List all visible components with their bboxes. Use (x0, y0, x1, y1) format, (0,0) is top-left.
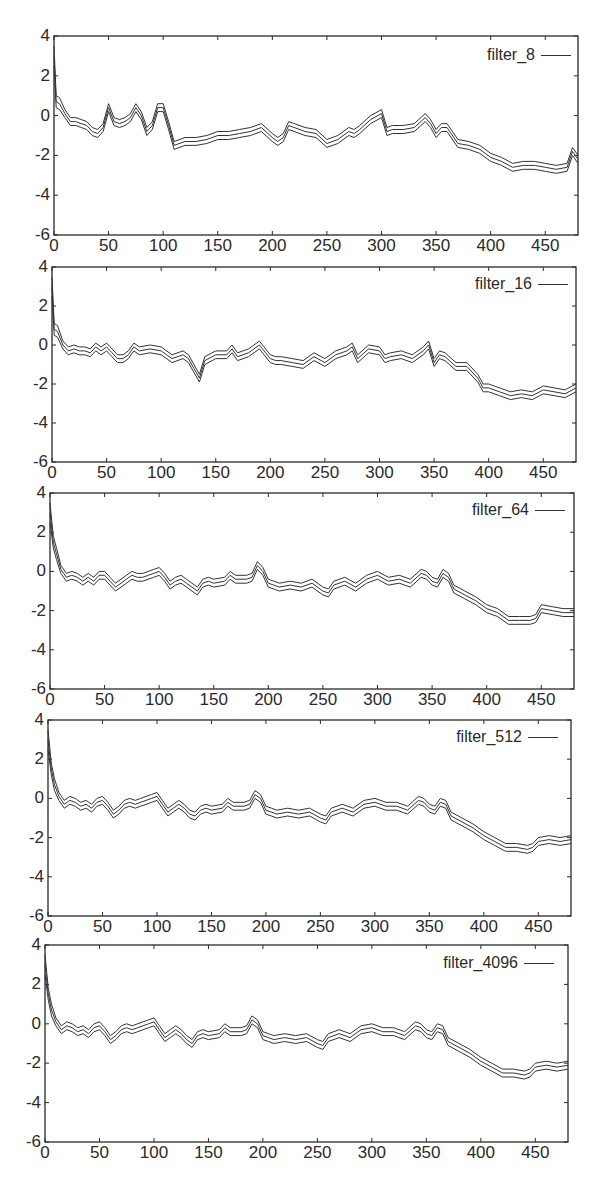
series-line-mid (45, 965, 568, 1075)
x-tick-label: 350 (406, 1144, 446, 1161)
axes-frame (45, 945, 568, 1142)
x-tick-label: 200 (243, 1144, 283, 1161)
y-tick-label: -2 (11, 1054, 41, 1071)
legend-label: filter_4096 (443, 955, 518, 971)
y-tick-label: -4 (11, 1094, 41, 1111)
x-tick-label: 450 (515, 1144, 555, 1161)
x-tick-label: 50 (79, 1144, 119, 1161)
series-line-lower (45, 975, 568, 1080)
y-tick-label: 0 (11, 1015, 41, 1032)
series-line-upper (45, 955, 568, 1071)
plot-area (0, 0, 601, 1201)
x-tick-label: 300 (352, 1144, 392, 1161)
x-tick-label: 250 (297, 1144, 337, 1161)
x-tick-label: 100 (134, 1144, 174, 1161)
x-tick-label: 400 (461, 1144, 501, 1161)
y-tick-label: 4 (11, 936, 41, 953)
y-tick-label: 2 (11, 975, 41, 992)
x-tick-label: 0 (25, 1144, 65, 1161)
legend-line-swatch (524, 963, 554, 964)
x-tick-label: 150 (188, 1144, 228, 1161)
chart-panel-filter-4096: filter_4096 420-2-4-60501001502002503003… (0, 0, 601, 1201)
legend: filter_4096 (443, 955, 554, 971)
